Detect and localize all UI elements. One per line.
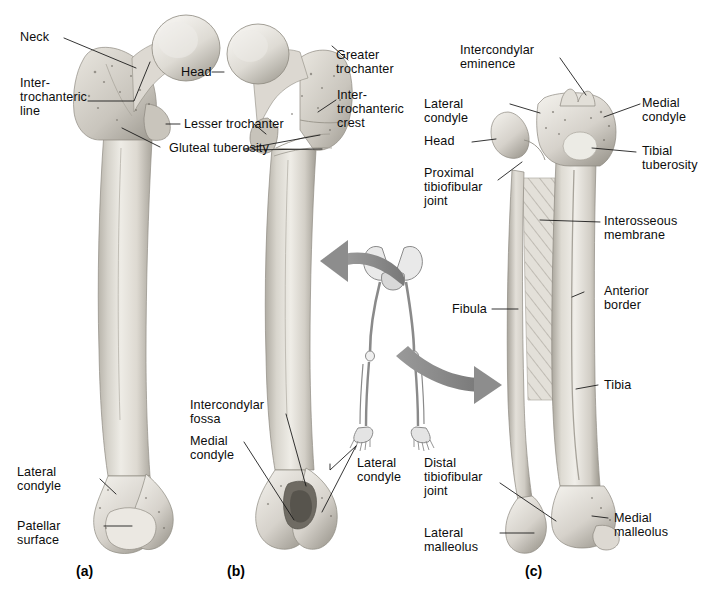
label-b-lateral-condyle: Lateral condyle (357, 456, 401, 484)
label-c-lateral-condyle: Lateral condyle (424, 97, 468, 125)
label-c-distal-tibiofibular: Distal tibiofibular joint (424, 456, 483, 499)
label-c-tibia: Tibia (604, 378, 631, 392)
label-c-anterior-border: Anterior border (604, 284, 649, 312)
label-c-tibial-tuberosity: Tibial tuberosity (642, 144, 698, 172)
panel-letter-c: (c) (525, 563, 542, 579)
label-a-lesser-trochanter: Lesser trochanter (184, 117, 284, 131)
label-c-fibula: Fibula (452, 302, 487, 316)
femur-posterior (227, 24, 352, 549)
label-c-lateral-malleolus: Lateral malleolus (424, 526, 478, 554)
anatomy-plate: Neck Inter- trochanteric line Head Lesse… (0, 0, 715, 608)
label-c-intercondylar-eminence: Intercondylar eminence (460, 43, 534, 71)
label-a-head: Head (181, 65, 212, 79)
label-b-greater-trochanter: Greater trochanter (336, 48, 394, 76)
panel-letter-b: (b) (227, 563, 245, 579)
label-c-head: Head (424, 134, 455, 148)
label-c-proximal-tibiofibular: Proximal tibiofibular joint (424, 166, 483, 209)
arrow-to-tibia-icon (396, 346, 502, 404)
femur-anterior (73, 15, 220, 554)
label-a-gluteal-tuberosity: Gluteal tuberosity (169, 141, 269, 155)
label-a-intertrochanteric-line: Inter- trochanteric line (20, 76, 87, 119)
label-a-lateral-condyle: Lateral condyle (17, 465, 61, 493)
label-a-neck: Neck (20, 30, 49, 44)
label-b-intertrochanteric-crest: Inter- trochanteric crest (337, 88, 404, 131)
lower-limb-skeleton-orientation (350, 246, 434, 451)
label-c-interosseous-membrane: Interosseous membrane (604, 214, 677, 242)
label-b-intercondylar-fossa: Intercondylar fossa (190, 398, 264, 426)
panel-letter-a: (a) (76, 563, 93, 579)
label-b-medial-condyle: Medial condyle (190, 434, 234, 462)
tibia-fibula (491, 89, 619, 553)
label-a-patellar-surface: Patellar surface (17, 519, 61, 547)
label-c-medial-condyle: Medial condyle (642, 96, 686, 124)
label-c-medial-malleolus: Medial malleolus (614, 511, 668, 539)
